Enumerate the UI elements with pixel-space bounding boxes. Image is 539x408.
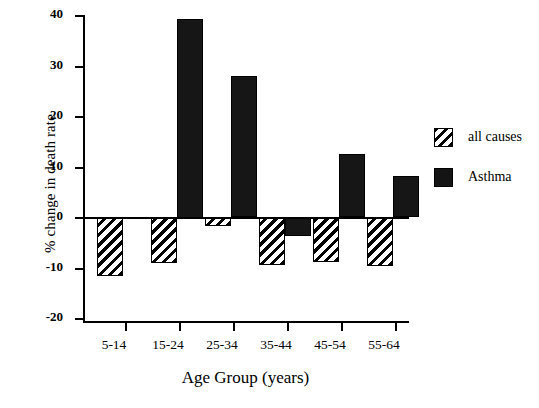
bar-all-causes-35-44 bbox=[259, 218, 285, 265]
hatch-swatch-icon bbox=[434, 128, 453, 147]
y-tick-20: 20 bbox=[75, 116, 84, 118]
bar-asthma-15-24 bbox=[177, 19, 203, 218]
legend-label-asthma: Asthma bbox=[468, 169, 512, 185]
y-tick-label-40: 40 bbox=[50, 6, 63, 22]
x-tick-5 bbox=[341, 322, 343, 331]
bar-all-causes-25-34 bbox=[205, 218, 231, 226]
bar-chart-figure: % change in death rate 40 30 20 10 0 -10… bbox=[0, 0, 539, 408]
bar-asthma-45-54 bbox=[339, 154, 365, 217]
y-tick-label-20: 20 bbox=[50, 107, 63, 123]
x-tick-1 bbox=[125, 322, 127, 331]
bar-all-causes-5-14 bbox=[97, 218, 123, 276]
y-tick-minus10: -10 bbox=[75, 268, 84, 270]
legend-label-all-causes: all causes bbox=[468, 129, 522, 145]
y-tick-minus20: -20 bbox=[75, 318, 84, 320]
y-tick-40: 40 bbox=[75, 15, 84, 17]
bar-asthma-35-44 bbox=[285, 218, 311, 236]
y-tick-label-minus20: -20 bbox=[46, 309, 63, 325]
bar-all-causes-55-64 bbox=[367, 218, 393, 266]
y-tick-label-10: 10 bbox=[50, 158, 63, 174]
y-tick-30: 30 bbox=[75, 66, 84, 68]
y-tick-10: 10 bbox=[75, 167, 84, 169]
y-axis-title: % change in death rate bbox=[42, 54, 59, 314]
bar-all-causes-15-24 bbox=[151, 218, 177, 263]
y-tick-label-0: 0 bbox=[57, 208, 64, 224]
x-tick-4 bbox=[287, 322, 289, 331]
x-tick-3 bbox=[233, 322, 235, 331]
x-axis-line bbox=[83, 321, 409, 323]
zero-baseline bbox=[83, 217, 409, 219]
y-tick-0: 0 bbox=[75, 217, 84, 219]
bar-asthma-25-34 bbox=[231, 76, 257, 217]
bar-all-causes-45-54 bbox=[313, 218, 339, 262]
y-tick-label-minus10: -10 bbox=[46, 259, 63, 275]
plot-area: 40 30 20 10 0 -10 -20 bbox=[83, 15, 408, 322]
solid-swatch-icon bbox=[434, 168, 453, 187]
x-tick-2 bbox=[179, 322, 181, 331]
bar-asthma-55-64 bbox=[393, 176, 419, 217]
x-axis-title: Age Group (years) bbox=[83, 368, 408, 388]
y-tick-label-30: 30 bbox=[50, 57, 63, 73]
x-tick-6 bbox=[395, 322, 397, 331]
x-category-label-6: 55-64 bbox=[344, 337, 424, 353]
y-axis-line bbox=[83, 15, 85, 323]
